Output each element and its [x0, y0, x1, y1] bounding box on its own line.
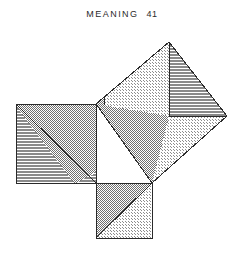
pythagorean-figure	[0, 0, 244, 258]
square-on-vertical-leg	[16, 104, 96, 183]
square-on-horizontal-leg	[96, 183, 152, 238]
hyp-square-upper-left-dot-region	[96, 42, 169, 116]
figure-page: MEANING 41	[0, 0, 244, 258]
